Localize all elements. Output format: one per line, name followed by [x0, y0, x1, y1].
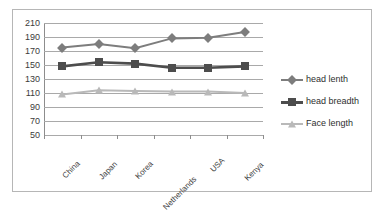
y-axis-tick-label: 90	[30, 103, 40, 112]
legend-label: head breadth	[306, 97, 359, 106]
x-axis-tick-label: China	[76, 145, 96, 165]
x-axis-tick-label-text: Netherlands	[162, 176, 198, 203]
x-axis-tick-label-text: Korea	[134, 160, 155, 181]
data-point-marker	[241, 90, 249, 97]
chart-figure: 210190170150130110907050 ChinaJapanKorea…	[12, 9, 372, 192]
data-point-marker	[240, 27, 250, 37]
legend-entry: head lenth	[281, 68, 367, 90]
x-axis-tick	[263, 135, 264, 139]
data-point-marker	[241, 62, 249, 70]
data-point-marker	[131, 60, 139, 68]
data-point-marker	[168, 64, 176, 72]
legend-key-marker	[288, 98, 296, 106]
chart-legend: head lenthhead breadthFace length	[281, 68, 367, 134]
x-axis-tick	[227, 135, 228, 139]
data-point-marker	[95, 87, 103, 94]
data-point-marker	[167, 33, 177, 43]
legend-key-marker	[287, 75, 297, 85]
data-point-marker	[204, 88, 212, 95]
y-axis-tick-label: 70	[30, 117, 40, 126]
x-axis-tick	[44, 135, 45, 139]
legend-key-square-icon	[281, 96, 303, 107]
legend-entry: Face length	[281, 112, 367, 134]
data-point-marker	[95, 58, 103, 66]
series-markers	[44, 23, 263, 135]
data-point-marker	[57, 43, 67, 53]
x-axis-tick-label: Japan	[113, 145, 134, 166]
data-point-marker	[131, 87, 139, 94]
x-axis-tick	[190, 135, 191, 139]
y-axis-tick-label: 110	[26, 89, 40, 98]
y-axis-tick-label: 170	[25, 47, 40, 56]
legend-label: Face length	[306, 119, 353, 128]
y-axis-tick-label: 130	[25, 75, 40, 84]
legend-key-diamond-icon	[281, 74, 303, 85]
data-point-marker	[58, 91, 66, 98]
legend-label: head lenth	[306, 75, 348, 84]
legend-key-triangle-icon	[281, 118, 303, 129]
y-axis-tick-label: 190	[25, 33, 40, 42]
data-point-marker	[168, 88, 176, 95]
data-point-marker	[94, 39, 104, 49]
x-axis-tick-label-text: Japan	[98, 160, 119, 181]
y-axis-tick-label: 210	[25, 19, 40, 28]
data-point-marker	[130, 43, 140, 53]
x-axis-tick-label-text: China	[62, 160, 82, 180]
data-point-marker	[58, 62, 66, 70]
legend-entry: head breadth	[281, 90, 367, 112]
data-point-marker	[203, 33, 213, 43]
data-point-marker	[204, 64, 212, 72]
y-axis-tick-label: 150	[25, 61, 40, 70]
x-axis-tick-label-text: Kenya	[243, 161, 265, 183]
legend-key-marker	[288, 120, 296, 127]
x-axis-tick	[117, 135, 118, 139]
x-axis-tick-label: Kenya	[259, 145, 281, 167]
plot-area: 210190170150130110907050 ChinaJapanKorea…	[44, 23, 263, 135]
y-axis-tick-label: 50	[30, 131, 40, 140]
x-axis-tick	[154, 135, 155, 139]
x-axis-tick-label: Korea	[150, 145, 171, 166]
x-axis-tick	[81, 135, 82, 139]
